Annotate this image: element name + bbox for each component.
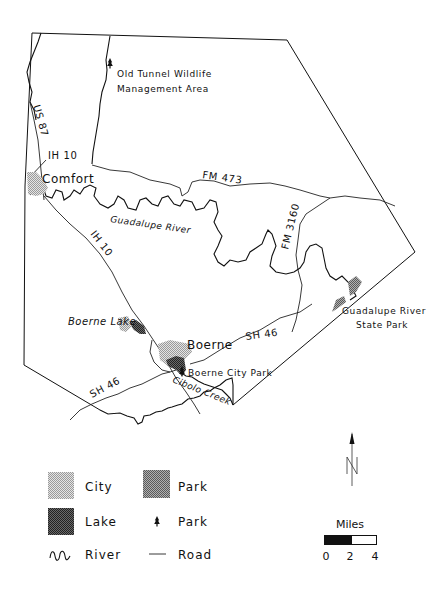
river-icon	[50, 551, 70, 560]
scale-bar-segment-white	[352, 536, 377, 545]
label-wildlife-area-line2: Management Area	[117, 84, 209, 94]
legend-swatch-park	[143, 470, 170, 498]
scale-tick-2: 2	[347, 550, 354, 563]
north-arrow-head-icon	[350, 432, 355, 444]
legend-label-river: River	[85, 548, 121, 562]
label-sh46-west: SH 46	[88, 375, 122, 400]
label-boerne-lake: Boerne Lake	[68, 316, 136, 327]
scale-bar-title: Miles	[336, 518, 364, 531]
legend-label-road: Road	[178, 548, 212, 562]
label-fm3160: FM 3160	[279, 202, 301, 250]
tree-icon	[154, 516, 160, 527]
scale-bar-segment-black	[325, 536, 352, 545]
label-boerne-city-park: Boerne City Park	[188, 368, 273, 378]
label-ih10-south: IH 10	[88, 228, 115, 258]
legend-label-lake: Lake	[85, 515, 117, 529]
label-fm473: FM 473	[202, 169, 243, 185]
label-guadalupe-state-park: Guadalupe River	[342, 306, 426, 316]
label-guadalupe-river: Guadalupe River	[110, 214, 193, 235]
legend-swatch-city	[48, 472, 74, 499]
legend-label-park-point: Park	[178, 515, 208, 529]
sh46-west-road	[70, 370, 176, 420]
label-sh46-east: SH 46	[245, 327, 279, 342]
tree-icon	[107, 58, 113, 69]
guadalupe-river	[30, 185, 352, 288]
legend-label-park-area: Park	[178, 480, 208, 494]
scale-tick-0: 0	[323, 550, 330, 563]
north-arrow	[347, 432, 357, 486]
label-boerne: Boerne	[187, 338, 233, 352]
legend-swatch-lake	[48, 508, 74, 535]
scale-bar: Miles 0 2 4	[323, 518, 379, 563]
legend-label-city: City	[85, 480, 113, 494]
label-wildlife-area: Old Tunnel Wildlife	[117, 69, 212, 79]
label-guadalupe-state-park-line2: State Park	[356, 320, 408, 330]
scale-tick-4: 4	[372, 550, 379, 563]
county-boundary	[24, 33, 415, 410]
label-ih10-north: IH 10	[48, 150, 77, 161]
county-map: Old Tunnel Wildlife Management Area US 8…	[0, 0, 442, 593]
old-tunnel-creek	[92, 36, 110, 164]
label-comfort: Comfort	[42, 172, 94, 186]
legend: City Park Lake Park River Road	[48, 470, 212, 562]
fm473-road	[92, 165, 395, 206]
